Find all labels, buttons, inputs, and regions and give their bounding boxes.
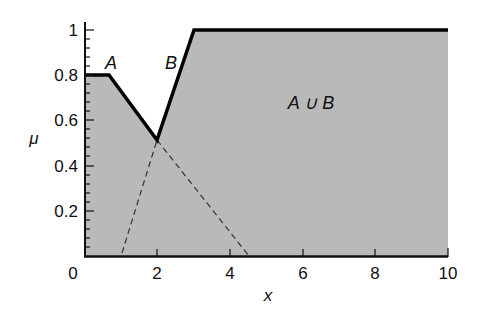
- series-a-label: A: [104, 53, 117, 73]
- x-tick-label-0: 0: [68, 264, 77, 283]
- union-area: [85, 30, 448, 256]
- x-tick-label-6: 6: [298, 264, 307, 283]
- y-tick-label-0.4: 0.4: [54, 157, 78, 176]
- x-tick-label-2: 2: [152, 264, 161, 283]
- y-tick-label-0.2: 0.2: [54, 202, 78, 221]
- y-axis-label: μ: [28, 129, 39, 148]
- x-axis-label: x: [263, 286, 273, 305]
- series-b-label: B: [165, 53, 177, 73]
- union-label: A ∪ B: [287, 93, 334, 113]
- y-tick-label-0.6: 0.6: [54, 111, 78, 130]
- x-tick-label-8: 8: [370, 264, 379, 283]
- y-tick-label-1: 1: [69, 21, 78, 40]
- x-tick-label-4: 4: [225, 264, 234, 283]
- x-tick-label-10: 10: [439, 264, 458, 283]
- y-tick-label-0.8: 0.8: [54, 66, 78, 85]
- fuzzy-union-chart: 1 0.8 0.6 0.4 0.2 0 2 4 6 8 10 x μ A B A…: [0, 0, 480, 312]
